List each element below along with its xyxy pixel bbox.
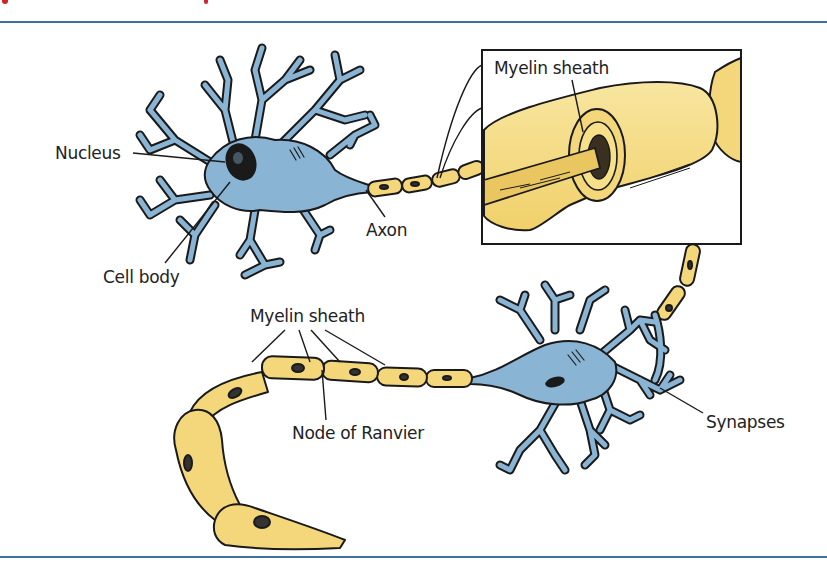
label-myelin-sheath-lower: Myelin sheath — [250, 306, 365, 326]
upper-neuron — [140, 48, 375, 275]
synapses-pointer — [660, 388, 703, 413]
label-axon: Axon — [366, 220, 407, 240]
label-nucleus: Nucleus — [55, 143, 121, 163]
label-myelin-sheath-inset: Myelin sheath — [494, 58, 609, 78]
neuron-diagram — [0, 0, 827, 579]
inset-box — [482, 50, 741, 244]
label-node-of-ranvier: Node of Ranvier — [292, 423, 424, 443]
lower-myelin-pointer-4 — [325, 330, 385, 365]
label-synapses: Synapses — [706, 412, 785, 432]
upper-axon — [367, 159, 485, 197]
descending-axon — [654, 243, 701, 323]
lower-cell-body-shape — [470, 341, 616, 405]
label-cell-body: Cell body — [103, 267, 180, 287]
lower-neuron — [470, 285, 680, 470]
